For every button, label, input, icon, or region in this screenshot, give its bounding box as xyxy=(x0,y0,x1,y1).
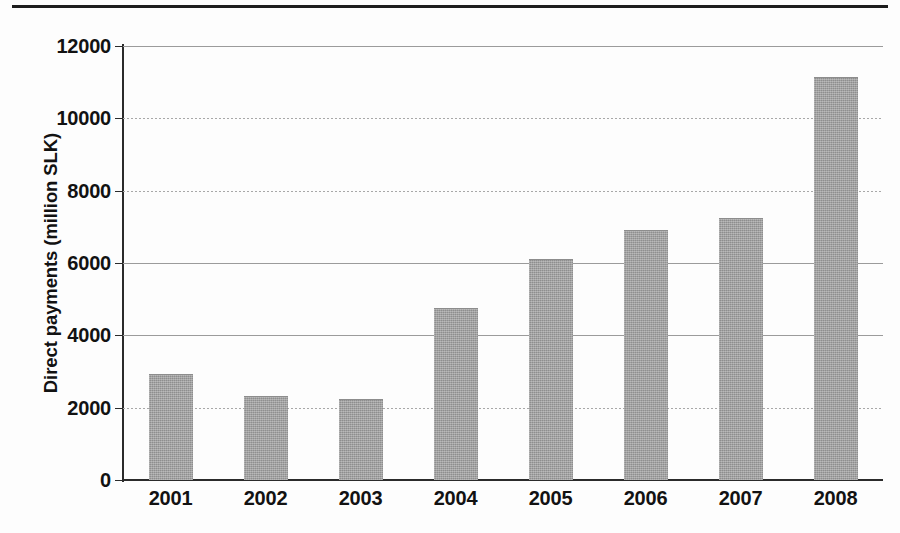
bar-chart: Direct payments (million SLK) 1200010000… xyxy=(0,0,900,533)
x-tick-label-2003: 2003 xyxy=(316,487,406,510)
y-tick-label: 12000 xyxy=(56,35,111,58)
bar-2005[interactable] xyxy=(529,259,573,480)
y-tick-label: 6000 xyxy=(67,252,111,275)
gridline-4000 xyxy=(123,335,883,336)
y-tick-label: 8000 xyxy=(67,179,111,202)
bar-2007[interactable] xyxy=(719,218,763,480)
bar-2002[interactable] xyxy=(244,396,288,480)
x-tick-label-2002: 2002 xyxy=(221,487,311,510)
y-tick-label: 10000 xyxy=(56,107,111,130)
y-tick-label: 4000 xyxy=(67,324,111,347)
x-tick-label-2007: 2007 xyxy=(696,487,786,510)
y-tick-mark xyxy=(115,480,123,481)
x-tick-label-2001: 2001 xyxy=(126,487,216,510)
bar-2004[interactable] xyxy=(434,308,478,480)
y-tick-label: 0 xyxy=(100,469,111,492)
y-tick-mark xyxy=(115,408,123,409)
x-tick-label-2006: 2006 xyxy=(601,487,691,510)
gridline-8000 xyxy=(123,191,883,192)
x-tick-label-2005: 2005 xyxy=(506,487,596,510)
y-tick-mark xyxy=(115,191,123,192)
gridline-12000 xyxy=(123,46,883,47)
bar-2008[interactable] xyxy=(814,77,858,480)
bar-2006[interactable] xyxy=(624,230,668,480)
gridline-6000 xyxy=(123,263,883,264)
x-tick-label-2004: 2004 xyxy=(411,487,501,510)
y-tick-mark xyxy=(115,335,123,336)
y-tick-label: 2000 xyxy=(67,396,111,419)
gridline-2000 xyxy=(123,408,883,409)
bar-2001[interactable] xyxy=(149,374,193,480)
y-tick-mark xyxy=(115,118,123,119)
plot-area: 120001000080006000400020000 xyxy=(123,46,883,480)
y-tick-mark xyxy=(115,263,123,264)
chart-page: Direct payments (million SLK) 1200010000… xyxy=(0,0,900,533)
gridline-10000 xyxy=(123,118,883,119)
x-tick-label-2008: 2008 xyxy=(791,487,881,510)
y-tick-mark xyxy=(115,46,123,47)
bar-2003[interactable] xyxy=(339,399,383,480)
